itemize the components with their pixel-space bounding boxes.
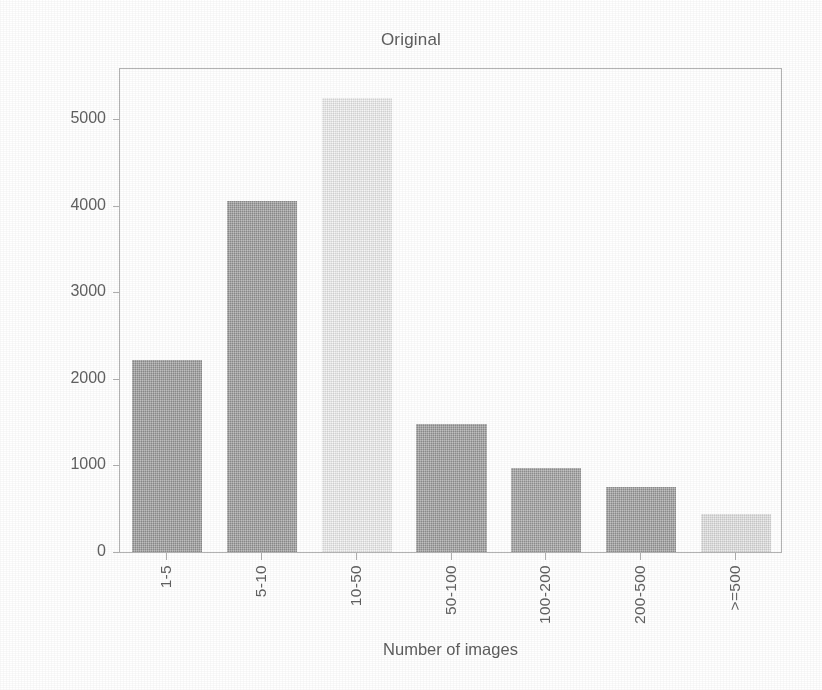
x-tick-label: 100-200 (536, 565, 554, 624)
x-tick-mark (451, 553, 452, 560)
bar-texture (416, 424, 486, 552)
plot-area (120, 69, 781, 552)
y-tick-label: 2000 (36, 369, 106, 387)
bar (511, 468, 581, 552)
x-tick-label: 200-500 (631, 565, 649, 624)
y-tick-label: 3000 (36, 282, 106, 300)
y-tick-label: 0 (36, 542, 106, 560)
x-axis-label: Number of images (119, 640, 782, 659)
x-tick-label: 10-50 (347, 565, 365, 606)
bar-texture (132, 360, 202, 552)
y-tick-label: 4000 (36, 196, 106, 214)
x-tick-label: 1-5 (157, 565, 175, 588)
bar-texture (322, 98, 392, 552)
bar-chart-figure: Original Number of classes 0100020003000… (0, 0, 822, 690)
x-tick-mark (356, 553, 357, 560)
bar-texture (606, 487, 676, 552)
chart-title: Original (0, 30, 822, 50)
bar (606, 487, 676, 552)
x-tick-label: 50-100 (442, 565, 460, 615)
y-tick-label: 1000 (36, 455, 106, 473)
y-tick-label: 5000 (36, 109, 106, 127)
bar (416, 424, 486, 552)
x-tick-mark (640, 553, 641, 560)
plot-frame (119, 68, 782, 553)
bar-texture (511, 468, 581, 552)
x-tick-mark (735, 553, 736, 560)
x-tick-mark (261, 553, 262, 560)
bar (227, 201, 297, 552)
x-tick-mark (166, 553, 167, 560)
bar (322, 98, 392, 552)
bar (701, 514, 771, 552)
x-tick-label: 5-10 (252, 565, 270, 597)
bar-texture (227, 201, 297, 552)
y-axis-label: Number of classes (0, 277, 2, 414)
x-tick-mark (545, 553, 546, 560)
x-tick-label: >=500 (726, 565, 744, 610)
bar (132, 360, 202, 552)
bar-texture (701, 514, 771, 552)
